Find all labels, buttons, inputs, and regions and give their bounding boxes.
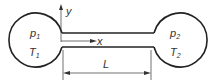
x-axis-label: x — [96, 35, 103, 47]
right-temperature-label: T2 — [170, 46, 181, 59]
left-temperature-label: T1 — [29, 46, 40, 59]
diagram-canvas: p1 T1 p2 T2 y x L — [0, 0, 216, 82]
dimension-arrow-right-icon — [144, 71, 151, 75]
y-axis-arrow-icon — [59, 4, 63, 10]
left-pressure-label: p1 — [29, 27, 40, 40]
x-axis-arrow-icon — [90, 39, 97, 43]
two-vessels-pipe-diagram: p1 T1 p2 T2 y x L — [0, 0, 216, 82]
y-axis-label: y — [65, 5, 73, 17]
dimension-arrow-left-icon — [63, 71, 70, 75]
length-label: L — [103, 58, 109, 70]
right-pressure-label: p2 — [169, 27, 180, 40]
